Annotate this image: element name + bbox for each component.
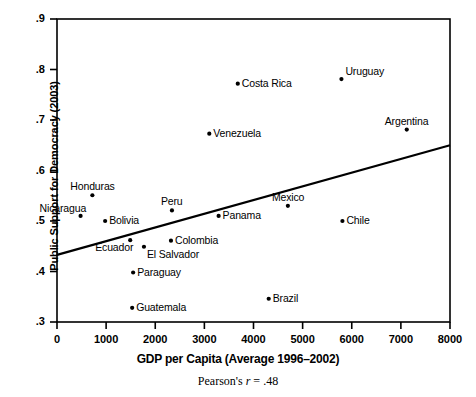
data-point-label: Ecuador: [95, 241, 133, 253]
axis-ticks: [50, 19, 450, 329]
data-point: [90, 193, 94, 197]
data-point-label: Mexico: [272, 191, 304, 203]
trend-line: [57, 145, 450, 255]
data-points: [78, 77, 408, 310]
x-tick-label: 3000: [182, 333, 226, 345]
data-point-label: Brazil: [273, 292, 298, 304]
x-tick-label: 0: [35, 333, 79, 345]
data-point-label: Chile: [346, 214, 369, 226]
data-point: [103, 219, 107, 223]
data-point: [130, 306, 134, 310]
data-point: [339, 77, 343, 81]
data-point: [340, 219, 344, 223]
y-tick-label: .5: [19, 214, 45, 226]
data-point: [169, 239, 173, 243]
data-point-label: Panama: [223, 209, 261, 221]
data-point: [142, 245, 146, 249]
x-axis-title: GDP per Capita (Average 1996–2002): [0, 352, 476, 366]
correlation-annotation: Pearson's r = .48: [0, 374, 476, 389]
data-point: [131, 270, 135, 274]
data-point-label: Honduras: [70, 180, 114, 192]
data-point-label: Paraguay: [137, 266, 181, 278]
data-point: [217, 214, 221, 218]
data-point: [267, 297, 271, 301]
scatter-plot-figure: Public Support for Democracy (2003) .3.4…: [0, 0, 476, 397]
x-tick-label: 4000: [232, 333, 276, 345]
y-tick-label: .4: [19, 265, 45, 277]
y-tick-label: .3: [19, 315, 45, 327]
x-tick-label: 5000: [281, 333, 325, 345]
x-tick-label: 1000: [84, 333, 128, 345]
data-point-label: Nicaragua: [40, 202, 87, 214]
x-tick-label: 7000: [379, 333, 423, 345]
data-point-label: Peru: [161, 195, 183, 207]
data-point: [170, 208, 174, 212]
x-tick-label: 2000: [133, 333, 177, 345]
data-point: [286, 204, 290, 208]
y-tick-label: .9: [19, 12, 45, 24]
data-point: [236, 82, 240, 86]
y-tick-label: .8: [19, 63, 45, 75]
data-point-label: Bolivia: [109, 214, 139, 226]
annotation-prefix: Pearson's: [198, 374, 246, 388]
data-point-label: Costa Rica: [242, 77, 292, 89]
data-point-label: Uruguay: [345, 65, 384, 77]
data-point-label: Argentina: [385, 115, 429, 127]
data-point: [78, 214, 82, 218]
annotation-suffix: = .48: [250, 374, 278, 388]
data-point-label: Colombia: [175, 234, 218, 246]
y-tick-label: .6: [19, 164, 45, 176]
y-tick-label: .7: [19, 113, 45, 125]
data-point-label: Guatemala: [136, 301, 186, 313]
data-point-label: Venezuela: [213, 127, 261, 139]
x-tick-label: 6000: [330, 333, 374, 345]
data-point: [207, 132, 211, 136]
plot-frame: [57, 19, 450, 322]
data-point: [405, 127, 409, 131]
x-tick-label: 8000: [428, 333, 472, 345]
regression-line: [57, 145, 450, 255]
data-point-label: El Salvador: [147, 248, 199, 260]
